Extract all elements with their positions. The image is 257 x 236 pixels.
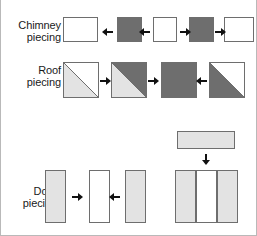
arrow-shaft: [143, 31, 150, 33]
arrow-head: [186, 28, 191, 36]
roof-label-line2: piecing: [9, 76, 61, 88]
door-unit-panel-right: [217, 170, 238, 223]
chimney-label-line2: piecing: [9, 31, 61, 43]
arrow-head: [154, 77, 159, 85]
chimney-piecing-label: Chimney piecing: [9, 19, 61, 43]
arrow-shaft: [113, 196, 120, 198]
arrow-shaft: [200, 80, 207, 82]
chimney-label-line1: Chimney: [9, 19, 61, 31]
arrow-head: [202, 160, 210, 165]
door-piece-center: [89, 170, 110, 223]
arrow-head: [139, 28, 144, 36]
roof-piece-4: [209, 62, 245, 98]
door-piece-right: [125, 170, 146, 223]
roof-piece-3: [161, 62, 197, 98]
arrow-head: [196, 77, 201, 85]
arrow-head: [102, 28, 107, 36]
door-unit-panel-center: [196, 170, 217, 223]
arrow-head: [106, 77, 111, 85]
arrow-head: [109, 193, 114, 201]
chimney-piece-4: [189, 17, 214, 42]
chimney-piece-3: [153, 17, 177, 42]
roof-piece-1: [63, 62, 99, 98]
diagram-canvas: Chimney piecing Roof piecing Door piecin…: [0, 0, 257, 236]
roof-piece-2: [111, 62, 147, 98]
arrow-head: [221, 28, 226, 36]
door-piece-left: [45, 170, 66, 223]
door-unit-panel-left: [175, 170, 196, 223]
arrow-head: [78, 193, 83, 201]
door-top-bar: [177, 131, 235, 149]
roof-piecing-label: Roof piecing: [9, 64, 61, 88]
arrow-shaft: [106, 31, 113, 33]
roof-label-line1: Roof: [9, 64, 61, 76]
chimney-piece-1: [63, 17, 98, 42]
chimney-piece-5: [224, 17, 254, 42]
